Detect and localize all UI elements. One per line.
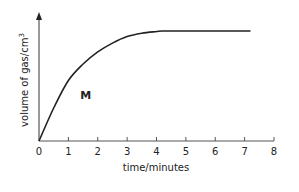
x-tick-label: 1 [65, 146, 71, 157]
y-axis-label-superscript: 3 [18, 33, 26, 37]
series-layer [39, 31, 251, 141]
x-tick-label: 6 [212, 146, 218, 157]
y-axis-label: volume of gas/cm3 [18, 33, 30, 127]
annotations: M [80, 89, 91, 102]
x-tick-label: 2 [95, 146, 101, 157]
series-line-M [39, 31, 251, 141]
x-tick-label: 4 [153, 146, 159, 157]
x-tick-label: 7 [241, 146, 247, 157]
x-tick-label: 0 [36, 146, 42, 157]
annotation-label: M [80, 89, 91, 102]
chart: 012345678 time/minutes volume of gas/cm3… [0, 0, 299, 192]
x-axis-label: time/minutes [123, 162, 189, 173]
x-tick-label: 8 [271, 146, 277, 157]
y-axis-label-text: volume of gas/cm [19, 38, 30, 127]
x-ticks: 012345678 [36, 137, 277, 157]
x-tick-label: 3 [124, 146, 130, 157]
x-tick-label: 5 [183, 146, 189, 157]
y-axis-arrow-icon [36, 12, 42, 20]
